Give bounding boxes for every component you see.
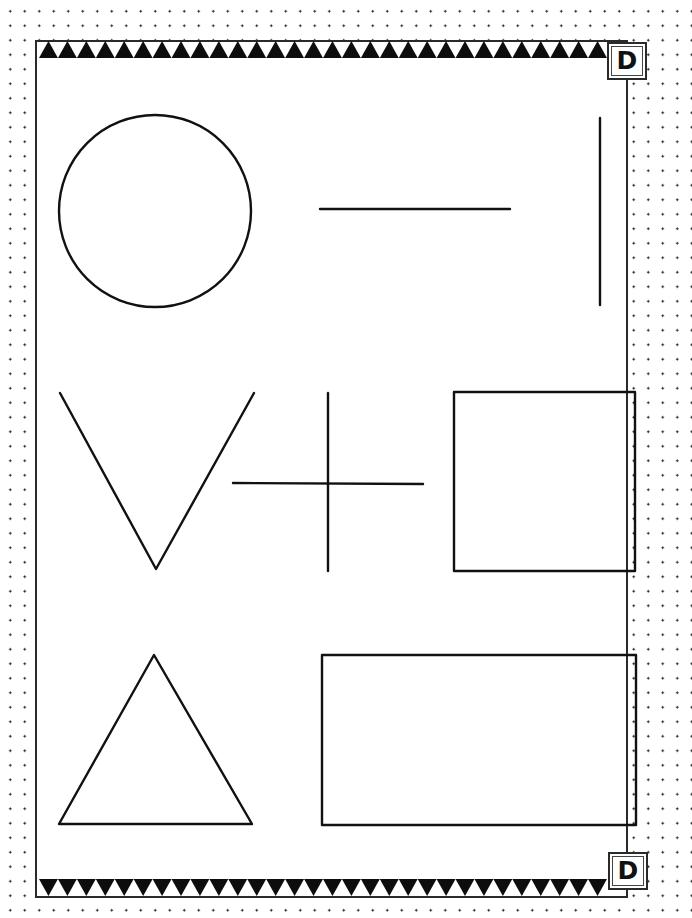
corner-letter-top: D (609, 46, 645, 75)
plus-cross-shape (233, 393, 423, 571)
square-shape (454, 392, 635, 571)
shapes-canvas (0, 0, 692, 918)
v-shape (60, 393, 254, 569)
circle-shape (59, 115, 251, 307)
corner-badge-top: D (607, 42, 647, 80)
corner-badge-bottom: D (608, 852, 648, 890)
triangle-shape (59, 655, 252, 824)
corner-letter-bottom: D (610, 856, 646, 885)
rectangle-shape (322, 655, 636, 825)
